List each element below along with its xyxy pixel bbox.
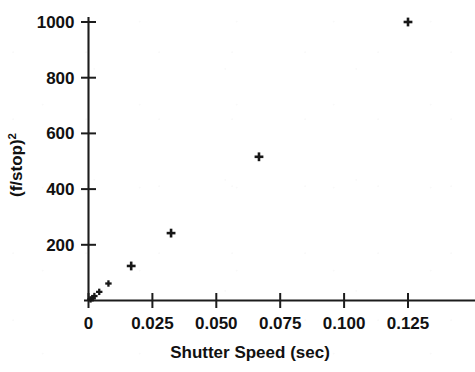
plot-canvas: 2004006008001000 00.0250.0500.0750.1000.… — [0, 0, 475, 372]
y-axis-tick-label: 200 — [46, 236, 74, 255]
scatter-plot-figure: 2004006008001000 00.0250.0500.0750.1000.… — [0, 0, 475, 372]
x-axis-tick-label: 0.125 — [387, 314, 430, 333]
data-point — [96, 289, 102, 295]
x-axis-tick-labels: 00.0250.0500.0750.1000.125 — [84, 314, 430, 333]
x-axis-tick-label: 0 — [84, 314, 93, 333]
y-axis-title-group: (f/stop)2 — [6, 133, 26, 197]
x-axis-tick-label: 0.075 — [259, 314, 302, 333]
data-point — [255, 152, 264, 161]
y-axis-tick-label: 600 — [46, 124, 74, 143]
data-point — [167, 229, 176, 238]
x-axis-tick-label: 0.100 — [323, 314, 366, 333]
data-point — [105, 280, 111, 286]
y-axis-title-exponent: 2 — [6, 133, 18, 139]
data-point-series — [87, 18, 412, 303]
data-point — [127, 262, 136, 271]
y-axis-tick-label: 800 — [46, 69, 74, 88]
y-axis-title: (f/stop)2 — [6, 133, 26, 197]
y-axis-title-base: (f/stop) — [7, 139, 26, 197]
y-axis-tick-label: 1000 — [37, 13, 75, 32]
x-axis-title: Shutter Speed (sec) — [170, 343, 330, 362]
x-axis-tick-label: 0.025 — [131, 314, 174, 333]
x-axis-tick-label: 0.050 — [195, 314, 238, 333]
y-axis-tick-label: 400 — [46, 180, 74, 199]
y-axis-tick-labels: 2004006008001000 — [37, 13, 75, 255]
data-point — [404, 18, 413, 27]
x-axis: 00.0250.0500.0750.1000.125 — [84, 293, 475, 333]
y-axis: 2004006008001000 — [37, 13, 96, 301]
